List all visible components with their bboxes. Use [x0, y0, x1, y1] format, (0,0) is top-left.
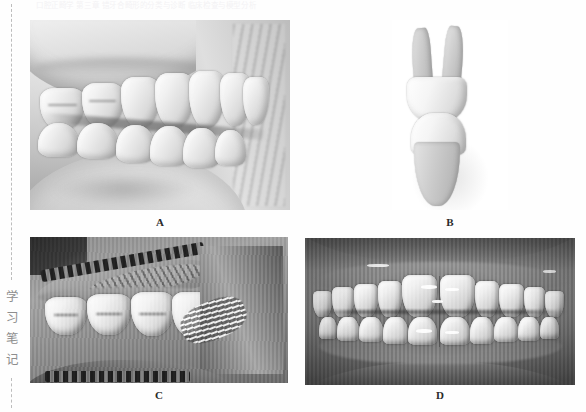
left-dashed-rule-lower: [11, 378, 12, 408]
figure-label-b: B: [392, 216, 508, 228]
panel-b-artwork: [392, 20, 508, 210]
panel-a-lower-tooth-3: [116, 125, 155, 163]
figure-label-c: C: [30, 389, 288, 401]
figure-panel-b: [392, 20, 508, 210]
figure-label-d: D: [305, 389, 575, 401]
scanned-header-ghost-text: 口腔正畸学 第三章 错牙合畸形的分类与诊断 临床检查与模型分析: [36, 0, 576, 11]
panel-a-cusp-line: [48, 104, 76, 106]
panel-a-chin-shadow: [51, 172, 197, 206]
figure-panel-c: [30, 237, 288, 383]
panel-d-artwork: [305, 238, 575, 385]
panel-a-cusp-line: [89, 100, 116, 102]
figure-page: 口腔正畸学 第三章 错牙合畸形的分类与诊断 临床检查与模型分析 学 习 笔 记: [0, 0, 586, 412]
left-dashed-rule-upper: [11, 4, 12, 280]
side-caption-study-notes: 学 习 笔 记: [3, 286, 21, 370]
panel-d-scan-lines: [305, 238, 575, 385]
panel-c-artwork: [30, 237, 288, 383]
side-caption-char-3: 笔: [3, 328, 21, 349]
side-caption-char-2: 习: [3, 307, 21, 328]
panel-c-scan-lines: [30, 237, 288, 383]
figure-panel-d: [305, 238, 575, 385]
side-caption-char-1: 学: [3, 286, 21, 307]
figure-label-a: A: [30, 216, 290, 228]
panel-a-lower-tooth-6: [215, 130, 246, 166]
panel-a-artwork: [30, 20, 290, 210]
side-caption-char-4: 记: [3, 349, 21, 370]
figure-panel-a: [30, 20, 290, 210]
